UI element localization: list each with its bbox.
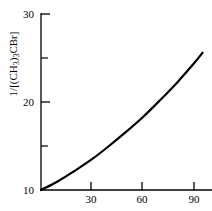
data-series-line	[41, 53, 203, 190]
x-tick-label-60: 60	[137, 194, 148, 205]
y-axis-title-sub2: 3	[12, 54, 21, 58]
chart-figure: 30 20 10 30 60 90 1/[(CH3)3CBr]	[0, 0, 212, 211]
y-axis-title-suffix: CBr]	[7, 32, 19, 54]
y-axis-title-prefix: 1/[(CH	[7, 65, 19, 96]
y-axis-title: 1/[(CH3)3CBr]	[7, 0, 19, 129]
y-tick-label-10: 10	[6, 185, 34, 196]
x-tick-label-90: 90	[189, 194, 200, 205]
y-axis-title-sub1: 3	[12, 61, 21, 65]
x-tick-label-30: 30	[86, 194, 97, 205]
